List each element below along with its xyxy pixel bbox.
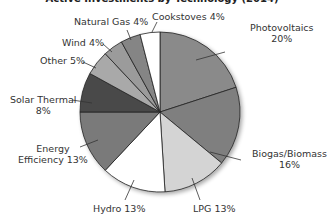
label-solar-thermal: Solar Thermal 8% <box>10 94 76 116</box>
label-pct: 8% <box>10 105 76 116</box>
label-line1: Energy <box>18 143 88 154</box>
label-lpg: LPG 13% <box>193 203 236 214</box>
pie-slices <box>80 32 240 192</box>
label-energy-efficiency: Energy Efficiency 13% <box>18 143 88 165</box>
label-biogas-biomass: Biogas/Biomass 16% <box>252 148 327 170</box>
label-natural-gas: Natural Gas 4% <box>74 16 148 27</box>
label-other: Other 5% <box>40 55 85 66</box>
label-wind: Wind 4% <box>62 37 104 48</box>
label-pct: 16% <box>252 159 327 170</box>
label-name: Photovoltaics <box>250 22 314 33</box>
label-cookstoves: Cookstoves 4% <box>152 11 225 22</box>
label-name: Solar Thermal <box>10 94 76 105</box>
label-line2: Efficiency 13% <box>18 154 88 165</box>
label-photovoltaics: Photovoltaics 20% <box>250 22 314 44</box>
label-pct: 20% <box>250 33 314 44</box>
label-name: Biogas/Biomass <box>252 148 327 159</box>
label-hydro: Hydro 13% <box>93 203 145 214</box>
